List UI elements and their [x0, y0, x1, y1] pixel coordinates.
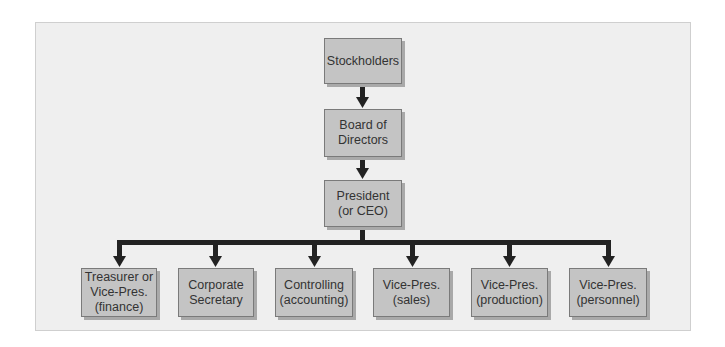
node-corporate-secretary: Corporate Secretary — [178, 268, 254, 317]
node-vp-sales: Vice-Pres. (sales) — [373, 268, 450, 317]
node-controlling: Controlling (accounting) — [275, 268, 353, 317]
node-board-of-directors: Board of Directors — [324, 109, 402, 157]
node-treasurer: Treasurer or Vice-Pres. (finance) — [81, 268, 157, 317]
node-vp-production: Vice-Pres. (production) — [471, 268, 548, 317]
node-vp-personnel: Vice-Pres. (personnel) — [569, 268, 647, 317]
node-president: President (or CEO) — [324, 180, 402, 227]
node-stockholders: Stockholders — [324, 38, 402, 84]
